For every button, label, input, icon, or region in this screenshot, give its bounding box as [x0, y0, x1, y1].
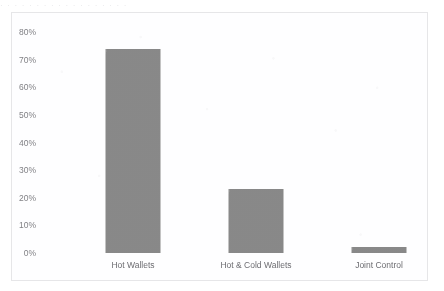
bar-slot-hot-wallets — [71, 13, 195, 253]
y-axis-tick-80: 80% — [12, 27, 36, 37]
y-axis-tick-40: 40% — [12, 138, 36, 148]
scan-bleed-through-text: · · · · · · · · · · · · · · · · · · — [0, 0, 444, 12]
bar-chart: 80% 70% 60% 50% 40% 30% 20% 10% 0% Hot W… — [12, 13, 429, 282]
y-axis-tick-50: 50% — [12, 110, 36, 120]
y-axis-tick-0: 0% — [12, 248, 36, 258]
x-axis-label-hot-and-cold-wallets: Hot & Cold Wallets — [194, 260, 318, 270]
bar-slot-joint-control — [317, 13, 441, 253]
y-axis-tick-30: 30% — [12, 165, 36, 175]
x-axis-label-hot-wallets: Hot Wallets — [71, 260, 195, 270]
y-axis-tick-10: 10% — [12, 220, 36, 230]
bar-hot-and-cold-wallets[interactable] — [229, 189, 284, 253]
y-axis-tick-60: 60% — [12, 82, 36, 92]
chart-plot-area: 80% 70% 60% 50% 40% 30% 20% 10% 0% Hot W… — [11, 12, 428, 281]
x-axis-label-joint-control: Joint Control — [317, 260, 441, 270]
y-axis-tick-70: 70% — [12, 55, 36, 65]
bar-slot-hot-and-cold-wallets — [194, 13, 318, 253]
y-axis-tick-20: 20% — [12, 193, 36, 203]
bar-joint-control[interactable] — [352, 247, 407, 253]
bars-container — [42, 13, 423, 253]
bar-hot-wallets[interactable] — [106, 49, 161, 253]
